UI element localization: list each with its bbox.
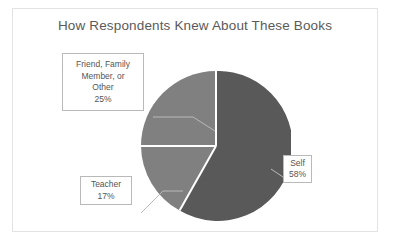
chart-frame: How Respondents Knew About These Books [12,8,378,232]
pie-label-line-2: Member, or [67,71,139,83]
chart-title: How Respondents Knew About These Books [13,18,377,33]
pie-label-line-1: Friend, Family [67,59,139,71]
pie-label-teacher[interactable]: Teacher 17% [80,176,132,205]
pie-label-friend-family-other[interactable]: Friend, Family Member, or Other 25% [62,53,144,111]
pie-label-value: 58% [288,169,307,181]
pie-label-value: 25% [67,94,139,106]
leader-line-teacher [141,187,183,213]
chart-screenshot: How Respondents Knew About These Books [0,0,393,251]
pie-label-self[interactable]: Self 58% [283,155,312,183]
pie-label-line-3: Other [67,82,139,94]
pie-label-line-1: Self [288,158,307,170]
pie-label-value: 17% [85,191,127,203]
leader-line-friend-family-other [153,101,215,131]
pie-label-line-1: Teacher [85,179,127,191]
